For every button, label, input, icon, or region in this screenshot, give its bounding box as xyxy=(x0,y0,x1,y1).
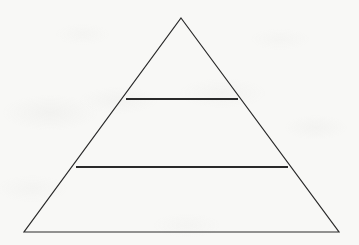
pyramid-tier-middle xyxy=(76,99,288,167)
pyramid-outline xyxy=(24,18,339,232)
pyramid-diagram-canvas xyxy=(0,0,359,245)
pyramid-tier-top xyxy=(126,18,238,99)
pyramid-diagram-figure xyxy=(0,0,359,245)
pyramid-tier-bottom xyxy=(24,167,339,232)
